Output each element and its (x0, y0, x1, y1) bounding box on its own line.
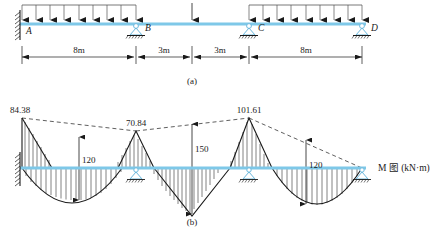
moment-chord-C-D (249, 118, 362, 168)
moment-span-value-AB: 120 (82, 155, 96, 165)
dimension-label-2: 3m (158, 45, 170, 55)
moment-support-A (15, 152, 20, 186)
moment-support-D (352, 168, 371, 183)
support-label-B: B (145, 23, 151, 33)
support-label-D: D (370, 23, 378, 33)
moment-support-C (239, 168, 258, 183)
distributed-load-right-arrows (249, 5, 362, 20)
moment-hatching-span-AB (26, 168, 121, 201)
panel-b-caption: (b) (187, 217, 198, 227)
moment-span-value-CD: 120 (309, 160, 323, 170)
moment-support-B (126, 168, 145, 183)
moment-hatching-span-CD (277, 168, 357, 205)
dimension-label-1: 8m (73, 45, 85, 55)
support-B (126, 24, 145, 39)
moment-hatching-peak-C (231, 122, 268, 168)
moment-chord-B-C (136, 118, 249, 131)
moment-curve-peak-B (118, 131, 154, 168)
moment-chord-A-B (22, 118, 136, 131)
moment-hatching-peak-B (118, 135, 150, 168)
moment-hatching-span-BC (154, 168, 218, 213)
moment-axis-label: M 图 (kN·m) (378, 163, 430, 174)
moment-span-value-BC: 150 (195, 144, 209, 154)
support-C (239, 24, 258, 39)
moment-curve-span-AB (22, 168, 122, 203)
distributed-load-left-arrows (22, 5, 136, 20)
moment-value-A: 84.38 (10, 105, 31, 115)
panel-a: A B (15, 3, 378, 86)
panel-a-caption: (a) (187, 76, 197, 86)
panel-b: 84.38 70.84 101.61 120 150 120 M 图 (kN·m… (10, 105, 430, 227)
support-label-A: A (25, 26, 32, 36)
support-A (15, 10, 20, 40)
support-D (352, 24, 371, 39)
support-label-C: C (258, 23, 265, 33)
moment-curve-peak-C (230, 118, 272, 168)
moment-value-C: 101.61 (237, 105, 262, 115)
figure-page: A B (0, 0, 441, 235)
dimension-label-4: 8m (300, 45, 312, 55)
moment-value-B: 70.84 (126, 118, 147, 128)
structural-diagram: A B (0, 0, 441, 235)
dimension-label-3: 3m (214, 45, 226, 55)
